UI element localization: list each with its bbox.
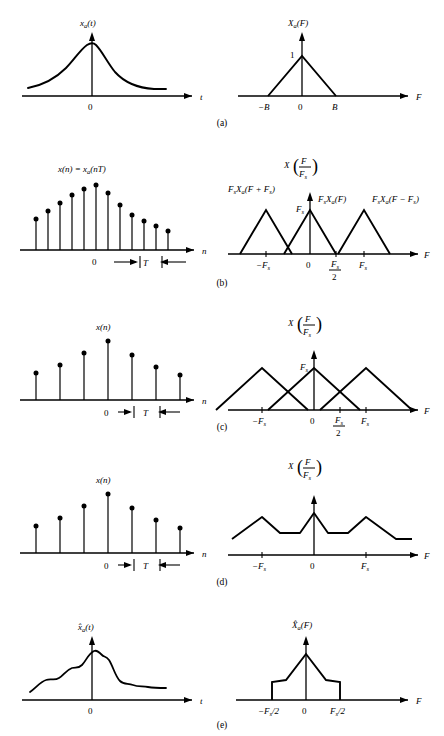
sample-period-indicator: T — [118, 559, 180, 571]
x-axis-arrowhead — [400, 697, 408, 703]
signal-label-X-F-over-Fs: X ( F Fs ) — [287, 457, 322, 481]
signal-label-xa-t: xa(t) — [79, 18, 96, 29]
sample-period-indicator: T — [114, 256, 186, 268]
panel-a: xa(t) 0 t Xa(F) 1 −B 0 B F (a) — [0, 0, 444, 140]
stem-group — [34, 492, 183, 554]
y-axis-arrowhead — [89, 32, 95, 41]
axis-label-F: F — [423, 406, 430, 416]
panel-a-spectrum-plot: Xa(F) 1 −B 0 B F — [230, 0, 440, 115]
stem-group — [34, 339, 183, 401]
panel-a-time-plot: xa(t) 0 t — [14, 0, 224, 115]
svg-text:F: F — [304, 457, 311, 467]
sublabel-e: (e) — [0, 720, 444, 730]
sublabel-c: (c) — [0, 422, 444, 432]
y-axis-arrowhead — [299, 32, 305, 41]
x-axis-arrowhead — [184, 93, 192, 99]
x-axis-arrowhead — [400, 93, 408, 99]
tick-label-neg-fs: −Fs — [252, 561, 267, 572]
sample-period-label: T — [143, 561, 149, 571]
svg-text:): ) — [316, 314, 322, 335]
x-axis-arrowhead — [186, 397, 194, 403]
svg-text:F: F — [300, 156, 307, 166]
panel-e: x̂a(t) 0 t X̂a(F) −Fs/2 0 Fs/2 F (e) — [0, 608, 444, 736]
replica-triangle-right — [320, 368, 412, 410]
origin-label: 0 — [302, 706, 307, 716]
analog-pulse-curve — [28, 43, 166, 89]
svg-text:X: X — [283, 160, 290, 170]
origin-label: 0 — [298, 102, 303, 112]
signal-label-Xa-F: Xa(F) — [287, 18, 308, 29]
y-axis-arrowhead — [311, 350, 317, 359]
annotation-replica-center: FsXa(F) — [317, 194, 346, 205]
sampling-aliasing-figure: xa(t) 0 t Xa(F) 1 −B 0 B F (a) — [0, 0, 444, 736]
stem-group — [34, 183, 171, 251]
panel-b-spectrum-plot: X ( F Fs ) Fs −Fs 0 Fs 2 Fs FsXa(F + Fs) — [222, 150, 444, 280]
sublabel-d: (d) — [0, 577, 444, 587]
svg-text:Fs: Fs — [298, 169, 308, 180]
axis-label-n: n — [202, 549, 207, 559]
signal-label-xn: x(n) — [95, 475, 111, 485]
signal-label-Xhat-a-F: X̂a(F) — [291, 620, 312, 631]
panel-c-spectrum-plot: X ( F Fs ) Fs −Fs 0 Fs 2 Fs F — [222, 312, 444, 437]
panel-d: T x(n) 0 n X ( F — [0, 455, 444, 595]
tick-label-neg-B: −B — [258, 102, 270, 112]
origin-label: 0 — [92, 257, 97, 267]
tick-label-fs: Fs — [358, 260, 368, 271]
x-axis-arrowhead — [410, 251, 418, 257]
svg-text:Fs: Fs — [302, 470, 312, 481]
signal-label-X-F-over-Fs: X ( F Fs ) — [287, 314, 322, 338]
svg-text:F: F — [304, 314, 311, 324]
origin-label: 0 — [306, 260, 311, 270]
tick-label-fs: Fs — [360, 561, 370, 572]
signal-label-xn: x(n) — [95, 322, 111, 332]
y-axis-arrowhead — [89, 636, 95, 645]
sublabel-b: (b) — [0, 278, 444, 288]
replica-triangle-right — [338, 210, 390, 254]
axis-label-t: t — [200, 696, 203, 706]
panel-e-spectrum-plot: X̂a(F) −Fs/2 0 Fs/2 F — [230, 608, 440, 718]
svg-text:Fs: Fs — [302, 327, 312, 338]
axis-label-F: F — [415, 92, 422, 102]
tick-label-neg-half-fs: −Fs/2 — [258, 706, 280, 717]
panel-e-time-plot: x̂a(t) 0 t — [14, 608, 224, 718]
annotation-replica-left: FsXa(F + Fs) — [227, 184, 275, 195]
aliased-sum-curve — [232, 513, 412, 539]
axis-label-t: t — [200, 92, 203, 102]
svg-text:): ) — [312, 156, 318, 177]
x-axis-arrowhead — [184, 697, 192, 703]
reconstructed-pulse-curve — [30, 651, 166, 692]
panel-d-stem-plot: T x(n) 0 n — [14, 455, 229, 575]
panel-b-stem-plot: T x(n) = xa(nT) 0 n — [14, 150, 229, 270]
svg-text:): ) — [316, 457, 322, 478]
x-axis-arrowhead — [410, 552, 418, 558]
svg-text:X: X — [287, 461, 294, 471]
y-axis-arrowhead — [307, 192, 313, 201]
replica-triangle-left — [240, 210, 292, 254]
tick-label-neg-fs: −Fs — [256, 260, 271, 271]
svg-text:Fs: Fs — [330, 259, 340, 270]
peak-value-label: 1 — [290, 50, 295, 60]
peak-value-label-fs: Fs — [299, 362, 309, 373]
signal-label-xn: x(n) = xa(nT) — [57, 164, 106, 175]
sample-period-indicator: T — [118, 406, 180, 418]
axis-label-n: n — [202, 396, 207, 406]
sample-period-label: T — [143, 258, 149, 268]
origin-label: 0 — [88, 706, 93, 716]
sample-period-label: T — [143, 408, 149, 418]
axis-label-F: F — [423, 250, 430, 260]
x-axis-arrowhead — [186, 247, 194, 253]
y-axis-arrowhead — [303, 636, 309, 645]
peak-value-label-fs: Fs — [295, 204, 305, 215]
svg-text:X: X — [287, 318, 294, 328]
tick-label-half-fs: Fs/2 — [329, 706, 346, 717]
axis-label-F: F — [415, 696, 422, 706]
axis-label-n: n — [202, 246, 207, 256]
y-axis-arrowhead — [311, 495, 317, 504]
signal-label-xhat-a-t: x̂a(t) — [77, 622, 94, 633]
tick-label-B: B — [332, 102, 338, 112]
origin-label: 0 — [104, 408, 109, 418]
origin-label: 0 — [104, 561, 109, 571]
origin-label: 0 — [310, 561, 315, 571]
replica-triangle-left — [216, 368, 308, 410]
panel-d-spectrum-plot: X ( F Fs ) −Fs 0 Fs F — [222, 455, 444, 580]
